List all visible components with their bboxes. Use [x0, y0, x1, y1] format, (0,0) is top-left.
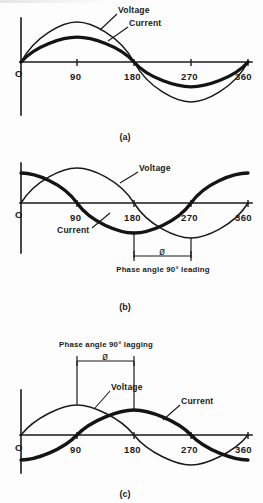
panel-a-current-leader	[108, 27, 128, 41]
panel-a-tick-label-270: 270	[181, 71, 198, 82]
panel-b-caption: (b)	[119, 302, 131, 312]
panel-a-current-label: Current	[129, 18, 161, 28]
panel-a-caption: (a)	[120, 132, 131, 142]
panel-b-voltage-leader	[120, 172, 138, 183]
panel-a-voltage-leader	[100, 14, 117, 30]
panel-b-origin-label: O	[15, 209, 22, 220]
panel-b-tick-label-90: 90	[70, 212, 81, 223]
panel-c-tick-label-270: 270	[181, 444, 198, 455]
panel-c: Phase angle 90° lagging ø Voltage Curren…	[0, 325, 263, 503]
panel-c-current-leader	[163, 405, 180, 420]
panel-c-caption: (c)	[120, 489, 131, 499]
panel-b-voltage-label: Voltage	[139, 163, 171, 173]
panel-c-phase-annotation: Phase angle 90° lagging	[59, 340, 153, 349]
panel-c-phi-symbol: ø	[102, 351, 108, 362]
panel-a-tick-label-180: 180	[124, 71, 141, 82]
panel-b: Voltage Current O 90 180 270 360 ø Phase…	[0, 155, 263, 323]
panel-a-tick-label-90: 90	[70, 71, 81, 82]
panel-b-tick-label-360: 360	[235, 212, 252, 223]
panel-a-origin-label: O	[15, 68, 22, 79]
panel-c-origin-label: O	[15, 442, 22, 453]
panel-b-phi-symbol: ø	[159, 246, 165, 257]
panel-c-current-label: Current	[181, 396, 213, 406]
panel-a: Voltage Current O 90 180 270 360 (a)	[0, 0, 263, 150]
panel-b-phase-annotation: Phase angle 90° leading	[116, 265, 210, 274]
panel-a-tick-label-360: 360	[235, 71, 252, 82]
panel-b-tick-label-270: 270	[181, 212, 198, 223]
panel-a-voltage-label: Voltage	[118, 5, 150, 15]
panel-c-tick-label-360: 360	[235, 444, 252, 455]
panel-c-tick-label-90: 90	[70, 444, 81, 455]
panel-b-tick-label-180: 180	[124, 212, 141, 223]
figure-root: Voltage Current O 90 180 270 360 (a) Vol…	[0, 0, 263, 503]
panel-c-voltage-leader	[95, 391, 110, 408]
panel-b-current-label: Current	[57, 225, 89, 235]
panel-c-tick-label-180: 180	[124, 444, 141, 455]
panel-c-voltage-label: Voltage	[111, 382, 143, 392]
